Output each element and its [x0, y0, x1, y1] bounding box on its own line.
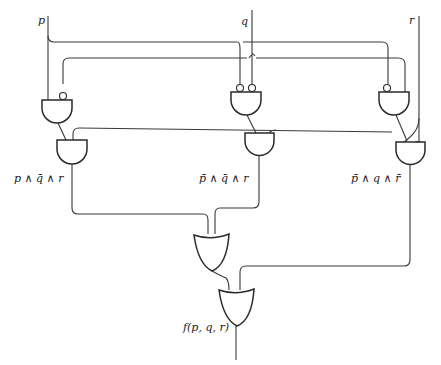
wire-1b-out — [72, 164, 208, 234]
wire-p-branch — [48, 36, 388, 84]
term-label-1: p ∧ q̄ ∧ r — [14, 173, 63, 184]
logic-circuit-diagram: p q r p ∧ q̄ ∧ r p̄ ∧ q̄ ∧ r p̄ ∧ q ∧ r̄… — [0, 0, 441, 365]
wire-1a-1b — [58, 123, 66, 140]
inverter-bubble-3a — [384, 85, 391, 92]
and-gate-3a — [379, 92, 409, 115]
and-gate-2b — [245, 133, 274, 156]
input-label-r: r — [409, 15, 414, 26]
wire-q-main — [249, 10, 255, 84]
and-gate-3b — [396, 142, 425, 165]
and-gate-2a — [231, 92, 261, 115]
term-label-3: p̄ ∧ q ∧ r̄ — [351, 173, 400, 184]
term-label-2: p̄ ∧ q̄ ∧ r — [199, 173, 248, 184]
and-gate-1a — [42, 100, 72, 123]
inverter-bubble-2a-right — [249, 85, 256, 92]
wire-3a-3b — [396, 115, 407, 141]
input-label-p: p — [38, 15, 45, 26]
or-gate-1 — [194, 234, 229, 271]
wire-2b-out — [215, 156, 259, 234]
input-label-q: q — [241, 16, 248, 27]
wire-p-to-gate2a — [237, 42, 240, 84]
inverter-bubble-2a-left — [237, 85, 244, 92]
output-label: f(p, q, r) — [183, 322, 229, 333]
inverter-bubble-1a — [60, 93, 67, 100]
and-gate-1b — [57, 140, 87, 164]
wire-r-rail — [73, 128, 392, 140]
wire-r-main — [404, 16, 419, 147]
wire-or1-out — [212, 271, 229, 290]
